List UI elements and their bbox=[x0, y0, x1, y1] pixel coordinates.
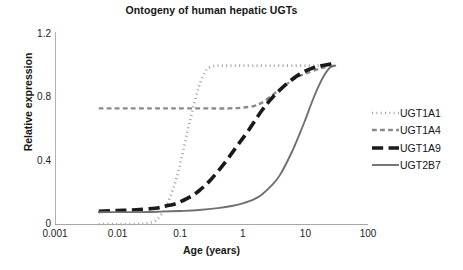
x-tick-label: 0.01 bbox=[88, 228, 148, 239]
y-axis-title: Relative expression bbox=[22, 32, 34, 172]
x-tick-label: 10 bbox=[275, 228, 335, 239]
y-tick-label: 0.4 bbox=[37, 155, 51, 166]
series-line-ugt1a9 bbox=[99, 63, 336, 211]
chart-title: Ontogeny of human hepatic UGTs bbox=[55, 4, 368, 17]
y-tick-label: 1.2 bbox=[37, 28, 51, 39]
x-tick-label: 1 bbox=[213, 228, 273, 239]
y-tick-label: 0.8 bbox=[37, 91, 51, 102]
legend-item-ugt2b7[interactable]: UGT2B7 bbox=[372, 157, 463, 175]
legend-label: UGT1A1 bbox=[400, 107, 441, 119]
legend-item-ugt1a4[interactable]: UGT1A4 bbox=[372, 122, 463, 140]
legend-swatch-ugt2b7-icon bbox=[372, 159, 399, 171]
legend-swatch-ugt1a9-icon bbox=[372, 142, 399, 154]
legend-item-ugt1a9[interactable]: UGT1A9 bbox=[372, 139, 463, 157]
plot-area bbox=[55, 34, 368, 224]
legend-label: UGT2B7 bbox=[400, 159, 441, 171]
x-axis-line bbox=[55, 224, 368, 225]
series-line-ugt2b7 bbox=[99, 66, 336, 212]
x-axis-title: Age (years) bbox=[55, 244, 368, 256]
x-tick-label: 100 bbox=[338, 228, 398, 239]
series-line-ugt1a1 bbox=[99, 66, 336, 225]
series-line-ugt1a4 bbox=[99, 66, 336, 109]
series-curves bbox=[55, 34, 368, 224]
x-tick-label: 0.1 bbox=[150, 228, 210, 239]
legend-label: UGT1A9 bbox=[400, 142, 441, 154]
x-tick-label: 0.001 bbox=[25, 228, 85, 239]
chart-figure: Ontogeny of human hepatic UGTs 00.40.81.… bbox=[0, 0, 463, 270]
legend-item-ugt1a1[interactable]: UGT1A1 bbox=[372, 104, 463, 122]
legend-swatch-ugt1a1-icon bbox=[372, 107, 399, 119]
legend-swatch-ugt1a4-icon bbox=[372, 124, 399, 136]
legend-label: UGT1A4 bbox=[400, 124, 441, 136]
chart-legend: UGT1A1UGT1A4UGT1A9UGT2B7 bbox=[372, 104, 463, 174]
